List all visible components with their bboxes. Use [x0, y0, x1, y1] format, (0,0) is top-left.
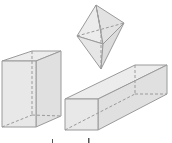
caption-marks: [52, 138, 90, 143]
octahedron: [77, 5, 124, 69]
solids-diagram: [0, 0, 172, 143]
tall-rectangular-prism: [2, 51, 61, 127]
long-rectangular-prism: [65, 65, 167, 130]
